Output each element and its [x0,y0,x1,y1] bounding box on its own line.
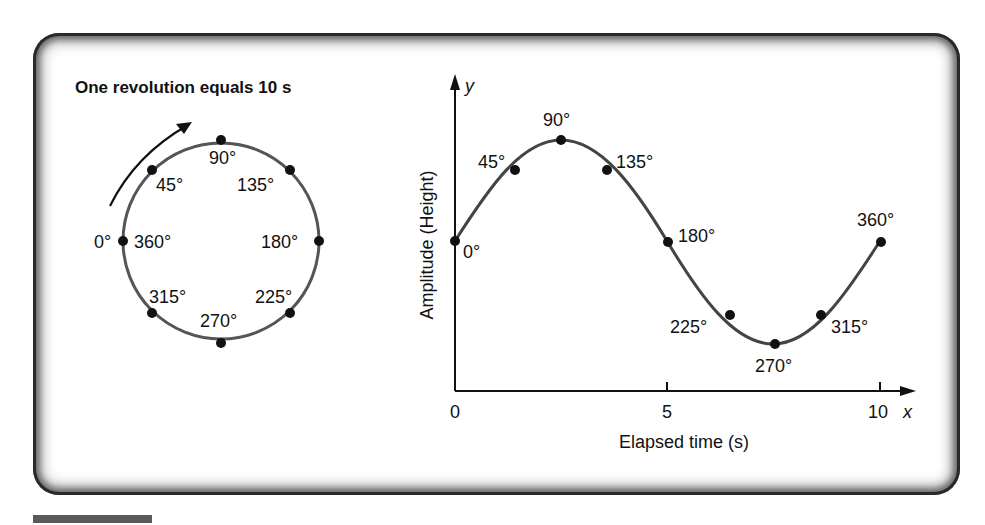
x-axis-label: Elapsed time (s) [619,432,749,452]
graph-label-360: 360° [857,210,894,230]
graph-label-180: 180° [678,226,715,246]
circle-label-315: 315° [149,287,186,307]
x-tick-5: 5 [662,402,672,422]
graph-label-135: 135° [616,152,653,172]
circle-label-90: 90° [209,148,236,168]
x-axis-letter: x [902,402,913,422]
graph-label-270: 270° [755,356,792,376]
diagram-canvas: One revolution equals 10 s 0° 360° 45° 9… [0,0,985,525]
circle-label-180: 180° [261,232,298,252]
circle-label-135: 135° [237,175,274,195]
circle-label-270: 270° [200,311,237,331]
graph-label-225: 225° [670,317,707,337]
y-axis-arrow-icon [450,74,460,90]
circle-label-225: 225° [255,287,292,307]
x-tick-10: 10 [868,402,888,422]
y-axis-letter: y [463,76,475,96]
circle-label-0: 0° [94,232,111,252]
circle-panel-title: One revolution equals 10 s [75,78,291,97]
circle-label-45: 45° [156,175,183,195]
graph-points [450,135,886,349]
circle-label-360: 360° [134,232,171,252]
x-tick-0: 0 [450,402,460,422]
graph-label-315: 315° [831,317,868,337]
y-axis-label: Amplitude (Height) [417,170,437,319]
graph-label-90: 90° [543,110,570,130]
footer-bar [33,515,152,523]
graph-label-0: 0° [463,242,480,262]
x-axis-arrow-icon [900,386,916,396]
graph-label-45: 45° [478,152,505,172]
